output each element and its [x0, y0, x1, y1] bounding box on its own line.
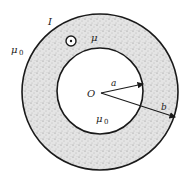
- label-inner-mu-subscript: 0: [104, 118, 108, 126]
- radius-a-arrow: [101, 84, 143, 93]
- label-outer-mu: μ: [11, 44, 18, 55]
- label-center-O: O: [87, 88, 95, 99]
- label-medium-mu: μ: [91, 32, 98, 43]
- annulus-diagram: I μ μ 0 O a b μ 0: [0, 0, 194, 185]
- label-outer-radius-b: b: [161, 102, 167, 112]
- current-out-of-page-icon: [66, 36, 76, 46]
- label-current-I: I: [47, 16, 53, 27]
- label-inner-radius-a: a: [111, 78, 116, 88]
- diagram-canvas: I μ μ 0 O a b μ 0: [0, 0, 194, 185]
- label-inner-mu: μ: [96, 113, 103, 124]
- label-outer-mu-subscript: 0: [19, 49, 23, 57]
